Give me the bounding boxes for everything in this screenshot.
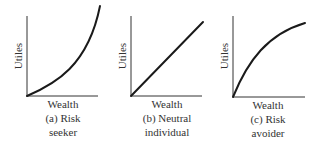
x-axis-label: Wealth [152, 98, 183, 110]
axes [27, 16, 98, 96]
axes [233, 16, 305, 97]
y-axis-label: Utiles [116, 43, 128, 69]
caption-line-1: (c) Risk [250, 113, 286, 126]
caption-line-1: (a) Risk [45, 112, 81, 125]
linear-utility-line [131, 22, 203, 96]
x-axis-label: Wealth [48, 98, 79, 110]
y-axis-label: Utiles [12, 43, 24, 69]
concave-utility-curve [233, 23, 305, 97]
panel-neutral-individual: Utiles Wealth (b) Neutral individual [116, 16, 203, 138]
y-axis-label: Utiles [218, 43, 230, 69]
caption-line-1: (b) Neutral [143, 112, 192, 125]
caption-line-2: seeker [49, 126, 77, 138]
x-axis-label: Wealth [253, 99, 284, 111]
utility-curves-figure: Utiles Wealth (a) Risk seeker Utiles Wea… [0, 0, 319, 151]
caption-line-2: avoider [252, 127, 285, 139]
panel-risk-seeker: Utiles Wealth (a) Risk seeker [12, 6, 100, 138]
caption-line-2: individual [145, 126, 190, 138]
panel-risk-avoider: Utiles Wealth (c) Risk avoider [218, 16, 305, 139]
convex-utility-curve [27, 6, 100, 96]
